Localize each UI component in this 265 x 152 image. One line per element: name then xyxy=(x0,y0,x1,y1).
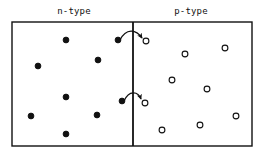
hole-circle-0 xyxy=(143,38,149,44)
electron-dot-4 xyxy=(63,94,69,100)
hole-circle-2 xyxy=(222,45,228,51)
figure-canvas: n-type p-type xyxy=(0,0,265,152)
electron-dot-3 xyxy=(35,63,41,69)
electron-dot-2 xyxy=(95,57,101,63)
hole-circle-5 xyxy=(142,100,148,106)
electron-dot-0 xyxy=(63,37,69,43)
electron-dot-7 xyxy=(63,131,69,137)
hole-circle-3 xyxy=(169,77,175,83)
hole-circle-7 xyxy=(197,122,203,128)
hole-circle-1 xyxy=(182,51,188,57)
electron-dot-6 xyxy=(94,112,100,118)
hole-circle-6 xyxy=(233,113,239,119)
hole-circle-4 xyxy=(204,86,210,92)
diagram-border xyxy=(12,22,252,146)
hole-circle-8 xyxy=(159,127,165,133)
pn-junction-diagram xyxy=(0,0,265,152)
electron-dot-5 xyxy=(28,113,34,119)
